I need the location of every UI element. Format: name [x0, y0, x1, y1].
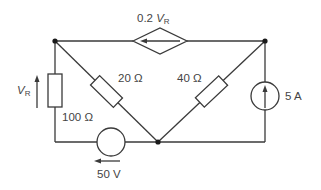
dependent-source-label: 0.2 VR	[137, 12, 170, 26]
resistor-100	[48, 74, 62, 107]
dependent-current-source	[133, 28, 187, 54]
arrow-up-icon	[35, 75, 40, 82]
node-bottom-center	[155, 139, 160, 144]
vr-label: VR	[17, 84, 31, 98]
node-top-left	[52, 38, 57, 43]
resistor-40-label: 40 Ω	[177, 72, 202, 84]
voltage-source-label: 50 V	[97, 168, 121, 180]
voltage-source	[97, 128, 125, 156]
resistor-100-label: 100 Ω	[62, 111, 93, 123]
arrow-left-icon	[94, 159, 101, 164]
circuit-diagram: 0.2 VR 100 Ω VR 50 V 20 Ω 40 Ω 5 A	[0, 0, 321, 190]
current-source-label: 5 A	[285, 90, 302, 102]
resistor-20-label: 20 Ω	[118, 72, 143, 84]
node-top-right	[262, 38, 267, 43]
